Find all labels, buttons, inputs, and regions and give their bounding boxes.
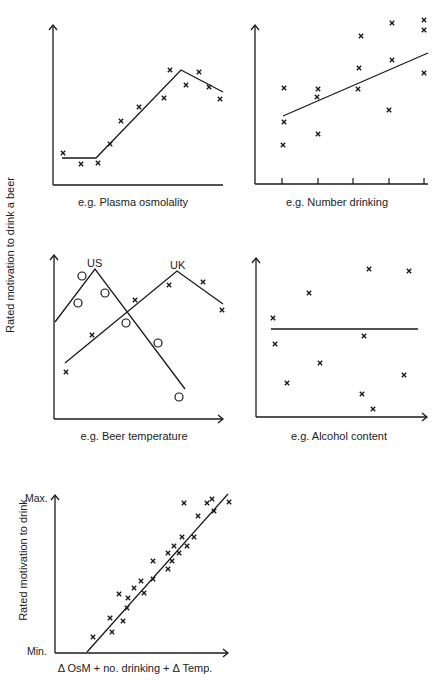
cross-marker <box>218 97 222 101</box>
cross-marker <box>210 497 214 501</box>
cross-marker <box>390 58 394 62</box>
cross-marker <box>184 83 188 87</box>
cross-marker <box>170 559 174 563</box>
cross-marker <box>360 392 364 396</box>
cross-marker <box>371 407 375 411</box>
x-axis-label-beer-temperature: e.g. Beer temperature <box>80 430 187 442</box>
cross-marker <box>282 86 286 90</box>
cross-marker <box>137 105 141 109</box>
cross-marker <box>422 18 426 22</box>
circle-marker <box>74 299 82 307</box>
cross-marker <box>166 551 170 555</box>
shared-y-axis-label: Rated motivation to drink a beer <box>4 177 16 333</box>
cross-marker <box>139 579 143 583</box>
cross-marker <box>110 630 114 634</box>
cross-marker <box>273 342 277 346</box>
series-label-uk: UK <box>170 259 185 271</box>
cross-marker <box>91 635 95 639</box>
cross-marker <box>281 143 285 147</box>
cross-marker <box>307 291 311 295</box>
cross-marker <box>177 551 181 555</box>
cross-marker <box>142 591 146 595</box>
cross-marker <box>402 373 406 377</box>
cross-marker <box>121 619 125 623</box>
cross-marker <box>126 596 130 600</box>
circle-marker <box>175 393 183 401</box>
chart-number-drinking <box>251 18 428 184</box>
cross-marker <box>96 161 100 165</box>
fit-line <box>62 70 223 158</box>
cross-marker <box>362 334 366 338</box>
circle-marker <box>122 319 130 327</box>
cross-marker <box>315 95 319 99</box>
cross-marker <box>271 316 275 320</box>
x-axis-label-combined: Δ OsM + no. drinking + Δ Temp. <box>58 662 213 674</box>
chart-plasma-osmolality <box>49 25 223 185</box>
cross-marker <box>167 283 171 287</box>
circle-marker <box>101 289 109 297</box>
y-tick-min: Min. <box>27 645 47 657</box>
cross-marker <box>282 120 286 124</box>
cross-marker <box>133 298 137 302</box>
cross-marker <box>318 361 322 365</box>
cross-marker <box>151 559 155 563</box>
fit-line <box>87 494 228 652</box>
cross-marker <box>132 586 136 590</box>
cross-marker <box>117 592 121 596</box>
chart-combined-factors <box>51 494 231 657</box>
x-axis-label-plasma: e.g. Plasma osmolality <box>78 196 188 208</box>
cross-marker <box>90 333 94 337</box>
cross-marker <box>285 381 289 385</box>
cross-marker <box>316 132 320 136</box>
cross-marker <box>227 500 231 504</box>
cross-marker <box>205 501 209 505</box>
cross-marker <box>172 544 176 548</box>
cross-marker <box>197 70 201 74</box>
cross-marker <box>166 567 170 571</box>
cross-marker <box>108 616 112 620</box>
cross-marker <box>79 162 83 166</box>
series-label-us: US <box>87 257 102 269</box>
cross-marker <box>357 66 361 70</box>
cross-marker <box>390 21 394 25</box>
cross-marker <box>196 514 200 518</box>
cross-marker <box>367 267 371 271</box>
figure-canvas <box>0 0 445 687</box>
cross-marker <box>61 151 65 155</box>
circle-marker <box>154 339 162 347</box>
circle-marker <box>78 272 86 280</box>
chart-beer-temperature <box>50 255 224 423</box>
cross-marker <box>407 269 411 273</box>
cross-marker <box>422 28 426 32</box>
cross-marker <box>192 535 196 539</box>
cross-marker <box>108 142 112 146</box>
cross-marker <box>168 68 172 72</box>
chart-alcohol-content <box>252 258 427 421</box>
cross-marker <box>356 87 360 91</box>
y-axis-label-combined: Rated motivation to drink <box>17 499 29 621</box>
cross-marker <box>201 280 205 284</box>
cross-marker <box>387 108 391 112</box>
series-line-us <box>55 269 185 389</box>
x-axis-label-number-drinking: e.g. Number drinking <box>286 196 388 208</box>
fit-line <box>283 53 428 116</box>
cross-marker <box>316 87 320 91</box>
cross-marker <box>182 501 186 505</box>
cross-marker <box>220 308 224 312</box>
cross-marker <box>162 96 166 100</box>
cross-marker <box>180 535 184 539</box>
x-axis-label-alcohol-content: e.g. Alcohol content <box>291 430 387 442</box>
cross-marker <box>64 370 68 374</box>
series-line-uk <box>65 271 223 363</box>
cross-marker <box>119 119 123 123</box>
cross-marker <box>185 544 189 548</box>
cross-marker <box>359 34 363 38</box>
cross-marker <box>422 71 426 75</box>
cross-marker <box>207 85 211 89</box>
